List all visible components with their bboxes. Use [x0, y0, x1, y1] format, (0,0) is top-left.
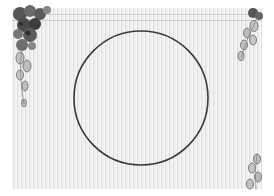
- center-circle-outline: [74, 31, 208, 165]
- bottom-right-bud-branch-icon: [247, 154, 262, 190]
- frame-artwork: [0, 0, 274, 196]
- top-right-bud-branch-icon: [238, 8, 263, 61]
- top-left-flower-cluster-icon: [13, 5, 51, 107]
